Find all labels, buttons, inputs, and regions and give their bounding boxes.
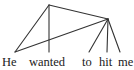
word-me: me xyxy=(118,55,133,69)
syntax-tree-diagram: He wanted to hit me xyxy=(0,0,134,70)
edge-root-n2 xyxy=(49,5,108,19)
word-hit: hit xyxy=(99,55,112,69)
edge-n2-me xyxy=(108,19,120,52)
tree-edges xyxy=(0,0,134,70)
word-he: He xyxy=(2,55,17,69)
edge-n2-to xyxy=(89,19,108,52)
edge-n2-he xyxy=(15,19,108,52)
word-to: to xyxy=(82,55,92,69)
edge-n2-hit xyxy=(107,19,108,52)
edge-root-he xyxy=(15,5,49,52)
word-wanted: wanted xyxy=(29,55,65,69)
